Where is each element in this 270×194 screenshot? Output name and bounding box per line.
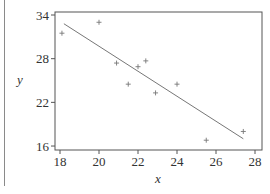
plot-border bbox=[55, 12, 262, 150]
scatter-chart: 16222834 182022242628 x y bbox=[0, 0, 270, 194]
y-tick-label: 34 bbox=[36, 8, 50, 23]
data-points bbox=[59, 20, 245, 143]
plot-frame bbox=[55, 12, 262, 150]
plus-marker-icon bbox=[204, 138, 209, 143]
regression-line bbox=[64, 24, 243, 139]
x-tick-label: 28 bbox=[249, 154, 262, 169]
x-tick-label: 18 bbox=[54, 154, 67, 169]
plus-marker-icon bbox=[59, 31, 64, 36]
fit-line bbox=[64, 24, 243, 139]
plus-marker-icon bbox=[136, 64, 141, 69]
plus-marker-icon bbox=[241, 129, 246, 134]
y-axis-ticks: 16222834 bbox=[36, 8, 55, 154]
x-tick-label: 22 bbox=[132, 154, 145, 169]
x-tick-label: 20 bbox=[93, 154, 106, 169]
y-axis-label: y bbox=[15, 72, 23, 87]
y-tick-label: 22 bbox=[36, 95, 49, 110]
x-tick-label: 24 bbox=[171, 154, 185, 169]
x-tick-label: 26 bbox=[210, 154, 224, 169]
plus-marker-icon bbox=[153, 90, 158, 95]
plus-marker-icon bbox=[175, 82, 180, 87]
plus-marker-icon bbox=[126, 82, 131, 87]
plus-marker-icon bbox=[114, 61, 119, 66]
y-tick-label: 28 bbox=[36, 51, 49, 66]
x-axis-label: x bbox=[154, 171, 161, 186]
y-tick-label: 16 bbox=[36, 139, 50, 154]
x-axis-ticks: 182022242628 bbox=[54, 150, 262, 169]
plus-marker-icon bbox=[97, 20, 102, 25]
plus-marker-icon bbox=[143, 58, 148, 63]
